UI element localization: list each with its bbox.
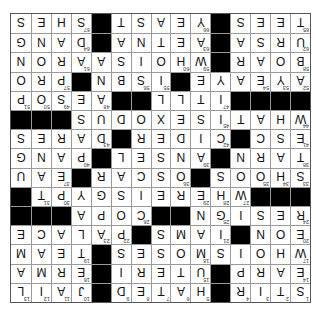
grid-cell-r10-c12[interactable]: S xyxy=(71,110,91,129)
grid-cell-r3-c1[interactable]: 17W xyxy=(290,244,310,263)
grid-cell-r9-c1[interactable]: 41E xyxy=(290,129,310,148)
grid-cell-r3-c5[interactable]: S xyxy=(210,244,230,263)
grid-cell-r9-c11[interactable]: 43D xyxy=(91,129,111,148)
grid-cell-r13-c11[interactable]: A xyxy=(91,52,111,71)
grid-cell-r8-c15[interactable]: G xyxy=(11,148,31,167)
grid-cell-r12-c14[interactable]: R xyxy=(31,72,51,91)
grid-cell-r4-c6[interactable]: A xyxy=(190,225,210,244)
grid-cell-r4-c5[interactable]: 21I xyxy=(210,225,230,244)
grid-cell-r15-c13[interactable]: H xyxy=(51,14,71,33)
grid-cell-r2-c12[interactable]: 16E xyxy=(71,264,91,283)
grid-cell-r9-c12[interactable]: A xyxy=(71,129,91,148)
grid-cell-r7-c15[interactable]: U xyxy=(11,168,31,187)
grid-cell-r12-c1[interactable]: 52A xyxy=(290,72,310,91)
grid-cell-r13-c8[interactable]: O xyxy=(151,52,171,71)
grid-cell-r10-c9[interactable]: O xyxy=(131,110,151,129)
grid-cell-r7-c5[interactable]: S xyxy=(210,168,230,187)
grid-cell-r7-c3[interactable]: 35O xyxy=(250,168,270,187)
grid-cell-r12-c8[interactable]: 55I xyxy=(151,72,171,91)
grid-cell-r7-c8[interactable]: S xyxy=(151,168,171,187)
grid-cell-r5-c1[interactable]: 24R xyxy=(290,206,310,225)
grid-cell-r7-c10[interactable]: A xyxy=(111,168,131,187)
grid-cell-r10-c8[interactable]: X xyxy=(151,110,171,129)
grid-cell-r2-c10[interactable]: I xyxy=(111,264,131,283)
grid-cell-r14-c2[interactable]: R xyxy=(270,33,290,52)
grid-cell-r14-c14[interactable]: N xyxy=(31,33,51,52)
grid-cell-r12-c5[interactable]: Y xyxy=(210,72,230,91)
grid-cell-r11-c7[interactable]: L xyxy=(170,91,190,110)
grid-cell-r7-c2[interactable]: 34H xyxy=(270,168,290,187)
grid-cell-r13-c1[interactable]: 58B xyxy=(290,52,310,71)
grid-cell-r8-c7[interactable]: N xyxy=(170,148,190,167)
grid-cell-r9-c7[interactable]: D xyxy=(170,129,190,148)
grid-cell-r4-c12[interactable]: L xyxy=(71,225,91,244)
grid-cell-r15-c10[interactable]: T xyxy=(111,14,131,33)
grid-cell-r11-c14[interactable]: 50O xyxy=(31,91,51,110)
grid-cell-r4-c3[interactable]: N xyxy=(250,225,270,244)
grid-cell-r8-c1[interactable]: 38T xyxy=(290,148,310,167)
grid-cell-r3-c10[interactable]: S xyxy=(111,244,131,263)
grid-cell-r5-c12[interactable]: A xyxy=(71,206,91,225)
grid-cell-r3-c14[interactable]: A xyxy=(31,244,51,263)
grid-cell-r8-c10[interactable]: L xyxy=(111,148,131,167)
grid-cell-r12-c3[interactable]: 54E xyxy=(250,72,270,91)
grid-cell-r6-c5[interactable]: 28H xyxy=(210,187,230,206)
grid-cell-r2-c3[interactable]: R xyxy=(250,264,270,283)
grid-cell-r1-c3[interactable]: 3I xyxy=(250,283,270,302)
grid-cell-r10-c4[interactable]: T xyxy=(230,110,250,129)
grid-cell-r11-c8[interactable]: L xyxy=(151,91,171,110)
grid-cell-r13-c7[interactable]: 60H xyxy=(170,52,190,71)
grid-cell-r2-c7[interactable]: T xyxy=(170,264,190,283)
grid-cell-r10-c7[interactable]: E xyxy=(170,110,190,129)
grid-cell-r12-c2[interactable]: 53Y xyxy=(270,72,290,91)
grid-cell-r6-c11[interactable]: G xyxy=(91,187,111,206)
grid-cell-r10-c11[interactable]: U xyxy=(91,110,111,129)
grid-cell-r1-c7[interactable]: 6A xyxy=(170,283,190,302)
grid-cell-r11-c15[interactable]: 51P xyxy=(11,91,31,110)
grid-cell-r15-c14[interactable]: E xyxy=(31,14,51,33)
grid-cell-r2-c15[interactable]: A xyxy=(11,264,31,283)
grid-cell-r9-c6[interactable]: I xyxy=(190,129,210,148)
grid-cell-r11-c5[interactable]: 47I xyxy=(210,91,230,110)
grid-cell-r1-c13[interactable]: 11A xyxy=(51,283,71,302)
grid-cell-r9-c13[interactable]: R xyxy=(51,129,71,148)
grid-cell-r5-c4[interactable]: I xyxy=(230,206,250,225)
grid-cell-r3-c2[interactable]: H xyxy=(270,244,290,263)
grid-cell-r5-c6[interactable]: N xyxy=(190,206,210,225)
grid-cell-r7-c4[interactable]: O xyxy=(230,168,250,187)
grid-cell-r14-c12[interactable]: 64D xyxy=(71,33,91,52)
grid-cell-r15-c7[interactable]: E xyxy=(170,14,190,33)
grid-cell-r14-c3[interactable]: S xyxy=(250,33,270,52)
grid-cell-r2-c4[interactable]: P xyxy=(230,264,250,283)
grid-cell-r13-c15[interactable]: N xyxy=(11,52,31,71)
grid-cell-r8-c13[interactable]: A xyxy=(51,148,71,167)
grid-cell-r15-c6[interactable]: 66Y xyxy=(190,14,210,33)
grid-cell-r15-c2[interactable]: E xyxy=(270,14,290,33)
grid-cell-r10-c6[interactable]: S xyxy=(190,110,210,129)
grid-cell-r4-c8[interactable]: S xyxy=(151,225,171,244)
grid-cell-r13-c10[interactable]: S xyxy=(111,52,131,71)
grid-cell-r5-c5[interactable]: 25G xyxy=(210,206,230,225)
grid-cell-r14-c15[interactable]: G xyxy=(11,33,31,52)
grid-cell-r8-c4[interactable]: N xyxy=(230,148,250,167)
grid-cell-r9-c8[interactable]: E xyxy=(151,129,171,148)
grid-cell-r10-c3[interactable]: A xyxy=(250,110,270,129)
grid-cell-r13-c2[interactable]: O xyxy=(270,52,290,71)
grid-cell-r2-c9[interactable]: R xyxy=(131,264,151,283)
grid-cell-r3-c12[interactable]: 19T xyxy=(71,244,91,263)
grid-cell-r12-c9[interactable]: 56S xyxy=(131,72,151,91)
grid-cell-r6-c7[interactable]: R xyxy=(170,187,190,206)
grid-cell-r15-c1[interactable]: 65T xyxy=(290,14,310,33)
grid-cell-r6-c13[interactable]: 30P xyxy=(51,187,71,206)
grid-cell-r5-c10[interactable]: O xyxy=(111,206,131,225)
grid-cell-r12-c11[interactable]: N xyxy=(91,72,111,91)
grid-cell-r5-c9[interactable]: 26C xyxy=(131,206,151,225)
grid-cell-r1-c6[interactable]: 5H xyxy=(190,283,210,302)
grid-cell-r10-c10[interactable]: D xyxy=(111,110,131,129)
grid-cell-r5-c3[interactable]: S xyxy=(250,206,270,225)
grid-cell-r15-c12[interactable]: 67S xyxy=(71,14,91,33)
grid-cell-r8-c14[interactable]: N xyxy=(31,148,51,167)
grid-cell-r7-c1[interactable]: 33S xyxy=(290,168,310,187)
grid-cell-r6-c14[interactable]: 31T xyxy=(31,187,51,206)
grid-cell-r2-c8[interactable]: E xyxy=(151,264,171,283)
